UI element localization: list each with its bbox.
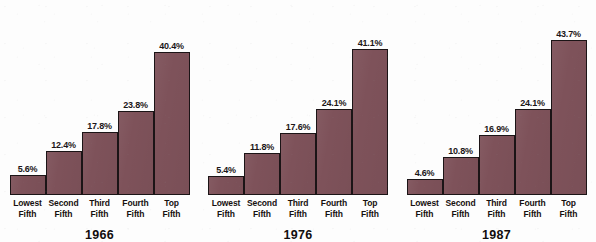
bar-group-row: 5.6% 12.4% 17.8% 23.8% [0, 0, 596, 242]
bar-value-label: 16.9% [484, 124, 509, 134]
category-label-row: Lowest Fifth Second Fifth Third Fifth Fo… [401, 198, 592, 219]
category-label: Second Fifth [443, 198, 479, 219]
category-label-line2: Fifth [118, 209, 154, 220]
category-label-line2: Fifth [208, 209, 244, 220]
bar[interactable]: 4.6% [407, 179, 443, 195]
category-label-line2: Fifth [407, 209, 443, 220]
plot-area-1987: 4.6% 10.8% 16.9% 24.1% [401, 11, 592, 195]
bar[interactable]: 11.8% [244, 153, 280, 195]
category-label: Third Fifth [82, 198, 118, 219]
category-label-line1: Fourth [122, 198, 148, 208]
bar-value-label: 10.8% [448, 146, 473, 156]
category-label-line1: Top [363, 198, 378, 208]
bar-value-label: 4.6% [415, 168, 435, 178]
grouped-bar-chart: 5.6% 12.4% 17.8% 23.8% [0, 0, 596, 242]
bar-group-1966: 5.6% 12.4% 17.8% 23.8% [4, 0, 195, 242]
bar[interactable]: 23.8% [118, 111, 154, 195]
bar[interactable]: 17.6% [280, 133, 316, 195]
bar[interactable]: 43.7% [551, 40, 587, 195]
bar[interactable]: 24.1% [515, 109, 551, 195]
category-label-line1: Third [288, 198, 309, 208]
group-year-label: 1987 [401, 228, 592, 242]
bar-slot: 4.6% [407, 11, 443, 195]
category-label: Top Fifth [352, 198, 388, 219]
bar-slot: 12.4% [46, 11, 82, 195]
bar-slot: 23.8% [118, 11, 154, 195]
bar[interactable]: 12.4% [46, 151, 82, 195]
category-label: Fourth Fifth [515, 198, 551, 219]
bar-value-label: 41.1% [358, 38, 383, 48]
category-label-line2: Fifth [551, 209, 587, 220]
category-label-line2: Fifth [10, 209, 46, 220]
bar-value-label: 23.8% [123, 100, 148, 110]
category-label: Lowest Fifth [208, 198, 244, 219]
bar-value-label: 11.8% [250, 142, 274, 152]
category-label: Lowest Fifth [10, 198, 46, 219]
bar-value-label: 17.6% [286, 122, 311, 132]
plot-area-1976: 5.4% 11.8% 17.6% 24.1% [203, 11, 394, 195]
category-label-line1: Top [164, 198, 179, 208]
bar-value-label: 12.4% [51, 140, 76, 150]
category-label-line1: Third [89, 198, 110, 208]
bar-value-label: 17.8% [87, 121, 112, 131]
category-label: Third Fifth [479, 198, 515, 219]
bar[interactable]: 10.8% [443, 157, 479, 195]
bar[interactable]: 24.1% [316, 109, 352, 195]
bar-slot: 41.1% [352, 11, 388, 195]
category-label: Second Fifth [244, 198, 280, 219]
category-label: Fourth Fifth [316, 198, 352, 219]
bar-slot: 11.8% [244, 11, 280, 195]
bar[interactable]: 5.4% [208, 176, 244, 195]
category-label-line2: Fifth [154, 209, 190, 220]
bar-slot: 17.8% [82, 11, 118, 195]
category-label-line2: Fifth [46, 209, 82, 220]
category-label-line2: Fifth [280, 209, 316, 220]
bar-slot: 5.6% [10, 11, 46, 195]
category-label-line1: Lowest [212, 198, 241, 208]
category-label-line2: Fifth [82, 209, 118, 220]
bar-slot: 16.9% [479, 11, 515, 195]
bar-group-1976: 5.4% 11.8% 17.6% 24.1% [203, 0, 394, 242]
category-label-line1: Third [486, 198, 507, 208]
bar-value-label: 24.1% [322, 98, 347, 108]
category-label-line1: Lowest [410, 198, 439, 208]
category-label-line1: Second [247, 198, 277, 208]
category-label-line2: Fifth [244, 209, 280, 220]
category-label-line2: Fifth [515, 209, 551, 220]
category-label: Second Fifth [46, 198, 82, 219]
category-label: Third Fifth [280, 198, 316, 219]
bar-slot: 5.4% [208, 11, 244, 195]
bar-slot: 40.4% [154, 11, 190, 195]
bar-slot: 24.1% [316, 11, 352, 195]
bar-value-label: 43.7% [556, 29, 581, 39]
category-label-line1: Lowest [13, 198, 42, 208]
category-label: Top Fifth [154, 198, 190, 219]
category-label-line1: Second [445, 198, 475, 208]
bar-slot: 43.7% [551, 11, 587, 195]
category-label-line2: Fifth [316, 209, 352, 220]
bar[interactable]: 40.4% [154, 52, 190, 195]
category-label-row: Lowest Fifth Second Fifth Third Fifth Fo… [4, 198, 195, 219]
bar[interactable]: 5.6% [10, 175, 46, 195]
plot-area-1966: 5.6% 12.4% 17.8% 23.8% [4, 11, 195, 195]
bar-value-label: 40.4% [159, 41, 184, 51]
bar-slot: 17.6% [280, 11, 316, 195]
bar-slot: 24.1% [515, 11, 551, 195]
category-label: Lowest Fifth [407, 198, 443, 219]
category-label-line1: Fourth [321, 198, 347, 208]
bar-value-label: 5.6% [18, 164, 38, 174]
bar-value-label: 24.1% [520, 98, 545, 108]
category-label: Top Fifth [551, 198, 587, 219]
bar[interactable]: 41.1% [352, 49, 388, 195]
bar-value-label: 5.4% [216, 165, 236, 175]
category-label-line2: Fifth [352, 209, 388, 220]
category-label-line2: Fifth [479, 209, 515, 220]
group-year-label: 1966 [4, 228, 195, 242]
bar-slot: 10.8% [443, 11, 479, 195]
bar-group-1987: 4.6% 10.8% 16.9% 24.1% [401, 0, 592, 242]
category-label-line1: Fourth [519, 198, 545, 208]
group-year-label: 1976 [203, 228, 394, 242]
category-label-line2: Fifth [443, 209, 479, 220]
bar[interactable]: 17.8% [82, 132, 118, 195]
bar[interactable]: 16.9% [479, 135, 515, 195]
